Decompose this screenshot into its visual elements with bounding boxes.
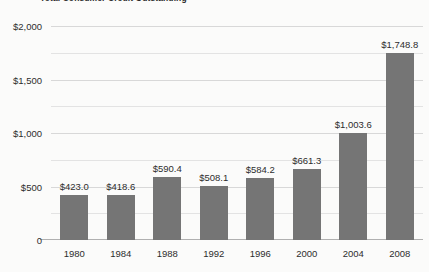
bar-value-label: $590.4 (153, 163, 182, 174)
bar[interactable] (107, 195, 135, 240)
bar-value-label: $508.1 (199, 172, 228, 183)
bar[interactable] (153, 177, 181, 240)
x-tick-label-2000: 2000 (296, 248, 317, 259)
y-tick-label-500: $500 (0, 181, 42, 192)
x-tick-label-1992: 1992 (203, 248, 224, 259)
bar-value-label: $423.0 (60, 181, 89, 192)
x-tick-label-1988: 1988 (157, 248, 178, 259)
bar-value-label: $1,748.8 (381, 39, 418, 50)
bar-group-2008: $1,748.8 (377, 26, 424, 240)
x-tick-label-1980: 1980 (64, 248, 85, 259)
bar-value-label: $418.6 (106, 181, 135, 192)
x-tick-label-2008: 2008 (389, 248, 410, 259)
x-tick-label-2004: 2004 (343, 248, 364, 259)
bar-group-2004: $1,003.6 (330, 26, 377, 240)
bar-value-label: $1,003.6 (335, 119, 372, 130)
bar[interactable] (386, 53, 414, 240)
bar[interactable] (60, 195, 88, 240)
bar-group-1992: $508.1 (191, 26, 238, 240)
bar-group-2000: $661.3 (284, 26, 331, 240)
bar-chart: Total Consumer Credit Outstanding $2,000… (0, 0, 429, 272)
bar-series: $423.0 $418.6 $590.4 $508.1 $584.2 $661.… (51, 26, 423, 240)
bar[interactable] (293, 169, 321, 240)
bar-group-1980: $423.0 (51, 26, 98, 240)
bar-group-1988: $590.4 (144, 26, 191, 240)
x-tick-label-1996: 1996 (250, 248, 271, 259)
y-tick-label-1000: $1,000 (0, 128, 42, 139)
x-tick-label-1984: 1984 (110, 248, 131, 259)
bar-value-label: $584.2 (246, 164, 275, 175)
bar-group-1996: $584.2 (237, 26, 284, 240)
y-tick-label-0: 0 (0, 235, 42, 246)
y-tick-label-2000: $2,000 (0, 21, 42, 32)
bar[interactable] (246, 178, 274, 241)
bar[interactable] (200, 186, 228, 240)
bar-group-1984: $418.6 (98, 26, 145, 240)
plot-area: $2,000 $1,500 $1,000 $500 0 $423.0 $418.… (51, 26, 423, 240)
bar-value-label: $661.3 (292, 155, 321, 166)
y-tick-label-1500: $1,500 (0, 74, 42, 85)
chart-title: Total Consumer Credit Outstanding (40, 0, 187, 3)
bar[interactable] (339, 133, 367, 240)
